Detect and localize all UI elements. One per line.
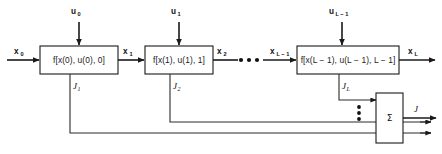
signal-label-x2: x xyxy=(217,47,222,56)
signal-label-x1-sub: 1 xyxy=(130,51,133,57)
signal-label-xL-sub: L xyxy=(415,51,419,57)
diagram-canvas: x 0 u 0 f[x(0), u(0), 0] x 1 J 1 u 1 xyxy=(0,0,442,154)
stage-last-group: x L − 1 u L − 1 f[x(L − 1), u(L − 1), L … xyxy=(263,7,435,100)
signal-label-xLm1: x xyxy=(270,47,275,56)
vertical-ellipsis-group xyxy=(357,105,361,121)
signal-label-x1: x xyxy=(123,47,128,56)
signal-label-u1: u xyxy=(171,7,176,16)
cost-label-j1-sub: 1 xyxy=(78,86,81,92)
sigma-icon: Σ xyxy=(387,113,393,123)
signal-label-uLm1: u xyxy=(329,7,334,16)
ellipsis-dot-2 xyxy=(247,58,251,62)
vertical-ellipsis-dot-1 xyxy=(357,105,361,109)
ellipsis-dot-3 xyxy=(255,58,259,62)
stage-block-1-label: f[x(1), u(1), 1] xyxy=(153,55,205,65)
vertical-ellipsis-dot-2 xyxy=(357,111,361,115)
signal-label-x0-sub: 0 xyxy=(21,51,24,57)
signal-label-xL: x xyxy=(408,47,413,56)
ellipsis-dot-1 xyxy=(239,58,243,62)
cost-label-jL-sub: L xyxy=(346,86,351,92)
signal-label-u0-sub: 0 xyxy=(78,11,81,17)
cost-output-label-j: J xyxy=(414,104,419,114)
signal-label-x2-sub: 2 xyxy=(224,51,227,57)
vertical-ellipsis-dot-3 xyxy=(357,117,361,121)
stage-block-last-label: f[x(L − 1), u(L − 1), L − 1] xyxy=(301,55,396,65)
summation-group: Σ J xyxy=(376,93,436,143)
signal-label-u1-sub: 1 xyxy=(178,11,181,17)
signal-label-u0: u xyxy=(71,7,76,16)
stage-block-0-label: f[x(0), u(0), 0] xyxy=(53,55,105,65)
horizontal-ellipsis-group xyxy=(239,58,259,62)
cost-label-j2-sub: 2 xyxy=(178,86,181,92)
signal-label-x0: x xyxy=(14,47,19,56)
block-diagram: x 0 u 0 f[x(0), u(0), 0] x 1 J 1 u 1 xyxy=(0,0,442,154)
signal-label-uLm1-sub: L − 1 xyxy=(336,11,349,17)
signal-label-xLm1-sub: L − 1 xyxy=(277,51,290,57)
